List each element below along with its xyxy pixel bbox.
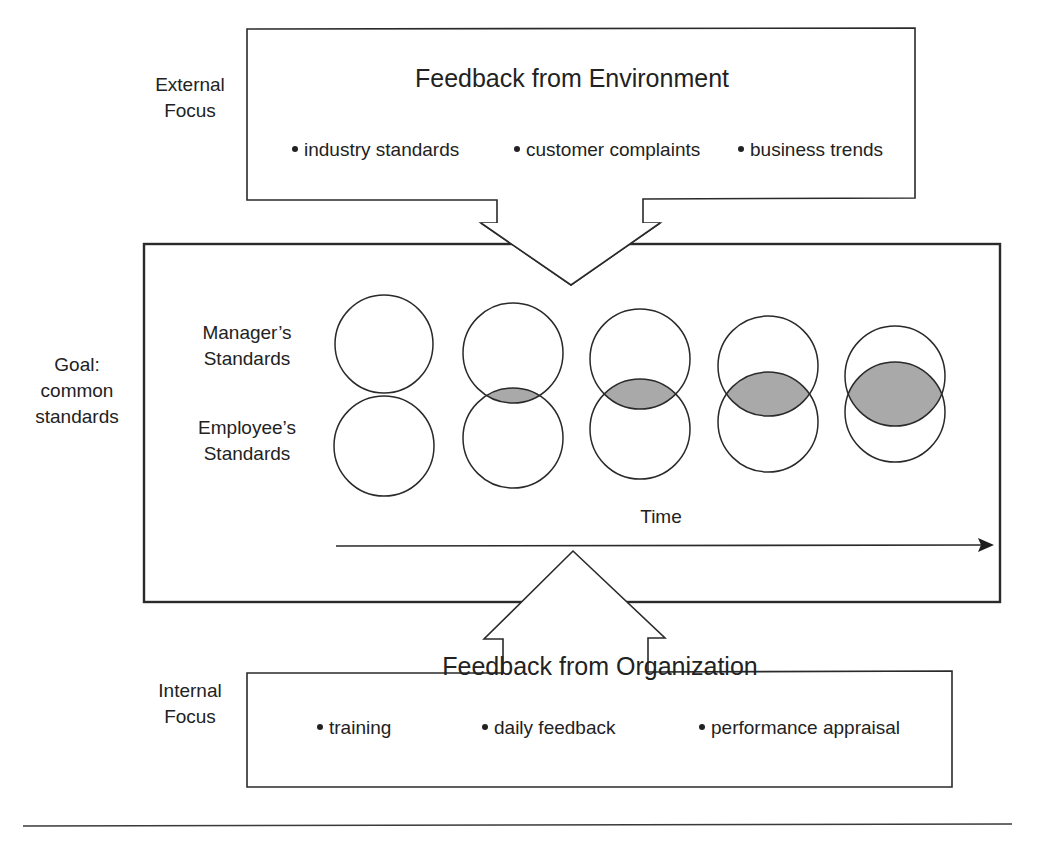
environment-title: Feedback from Environment	[415, 64, 729, 93]
goal-label-line2: common	[22, 378, 132, 404]
bullet-icon	[699, 724, 705, 730]
external-focus-line1: External	[150, 72, 230, 98]
goal-label: Goal: common standards	[22, 352, 132, 430]
bullet-icon	[292, 146, 298, 152]
internal-focus-line1: Internal	[150, 678, 230, 704]
bullet-icon	[482, 724, 488, 730]
bullet-icon	[317, 724, 323, 730]
standards-stage-1	[334, 295, 434, 496]
bullet-text: performance appraisal	[711, 717, 900, 738]
employees-standards-label: Employee’s Standards	[177, 415, 317, 467]
bullet-icon	[738, 146, 744, 152]
bullet-icon	[514, 146, 520, 152]
organization-title: Feedback from Organization	[442, 652, 757, 681]
time-label: Time	[640, 506, 682, 528]
organization-bullet-2: daily feedback	[482, 717, 615, 739]
bullet-text: customer complaints	[526, 139, 700, 160]
internal-focus-label: Internal Focus	[150, 678, 230, 730]
external-focus-line2: Focus	[150, 98, 230, 124]
footer-rule	[23, 824, 1012, 826]
employees-line2: Standards	[177, 441, 317, 467]
managers-line1: Manager’s	[182, 320, 312, 346]
standards-stage-2	[463, 303, 563, 488]
standards-stage-4	[718, 316, 818, 472]
managers-line2: Standards	[182, 346, 312, 372]
employees-line1: Employee’s	[177, 415, 317, 441]
standards-stage-3	[590, 309, 690, 479]
bullet-text: industry standards	[304, 139, 459, 160]
organization-bullet-1: training	[317, 717, 391, 739]
environment-bullet-2: customer complaints	[514, 139, 700, 161]
bullet-text: business trends	[750, 139, 883, 160]
bullet-text: daily feedback	[494, 717, 615, 738]
external-focus-label: External Focus	[150, 72, 230, 124]
managers-standards-label: Manager’s Standards	[182, 320, 312, 372]
goal-label-line1: Goal:	[22, 352, 132, 378]
goal-label-line3: standards	[22, 404, 132, 430]
bullet-text: training	[329, 717, 391, 738]
internal-focus-line2: Focus	[150, 704, 230, 730]
standards-stage-5	[845, 326, 945, 462]
organization-bullet-3: performance appraisal	[699, 717, 900, 739]
time-axis-arrow	[336, 545, 982, 546]
environment-bullet-3: business trends	[738, 139, 883, 161]
down-arrow-head	[481, 223, 660, 285]
environment-bullet-1: industry standards	[292, 139, 459, 161]
